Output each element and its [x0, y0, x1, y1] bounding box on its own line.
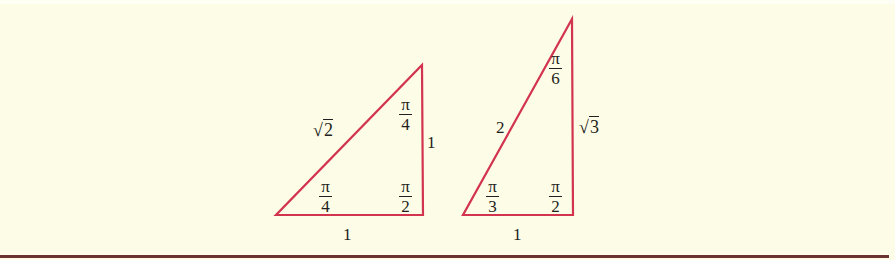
vertical-side-label-sqrt3: √3 [579, 118, 599, 136]
vertical-side-label: 1 [427, 134, 436, 151]
angle-top-pi-over-6: π 6 [549, 50, 562, 87]
angle-top-pi-over-4: π 4 [399, 96, 412, 133]
sqrt-symbol: √ [313, 120, 323, 140]
hypotenuse-label-2: 2 [496, 119, 505, 136]
radicand: 2 [323, 119, 333, 140]
angle-right-pi-over-2: π 2 [549, 178, 562, 215]
sqrt-symbol: √ [579, 117, 589, 137]
angle-bottom-left-pi-over-3: π 3 [486, 178, 499, 215]
angle-right-pi-over-2: π 2 [399, 178, 412, 215]
hypotenuse-label-sqrt2: √2 [313, 121, 333, 139]
triangles-svg [0, 0, 895, 260]
base-label: 1 [343, 226, 352, 243]
base-label: 1 [513, 226, 522, 243]
angle-bottom-left-pi-over-4: π 4 [319, 178, 332, 215]
diagram-panel: √2 1 1 π 4 π 4 π 2 2 √3 1 π 6 π 3 π 2 [0, 0, 895, 260]
radicand: 3 [589, 116, 599, 137]
bottom-rule [0, 255, 889, 258]
